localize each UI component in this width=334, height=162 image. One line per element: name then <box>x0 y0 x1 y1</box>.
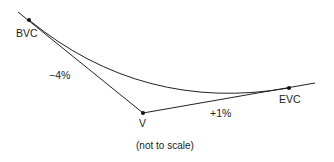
bvc-point <box>27 18 31 22</box>
grade-in-label: −4% <box>49 69 70 81</box>
not-to-scale-note: (not to scale) <box>136 140 194 151</box>
vertical-curve <box>29 20 289 93</box>
v-point <box>141 111 145 115</box>
evc-label: EVC <box>279 93 301 105</box>
grade-out-label: +1% <box>210 107 231 119</box>
evc-point <box>287 86 291 90</box>
bvc-label: BVC <box>16 27 38 39</box>
vertical-curve-diagram: BVC −4% V +1% EVC (not to scale) <box>0 0 334 162</box>
v-label: V <box>139 117 146 129</box>
